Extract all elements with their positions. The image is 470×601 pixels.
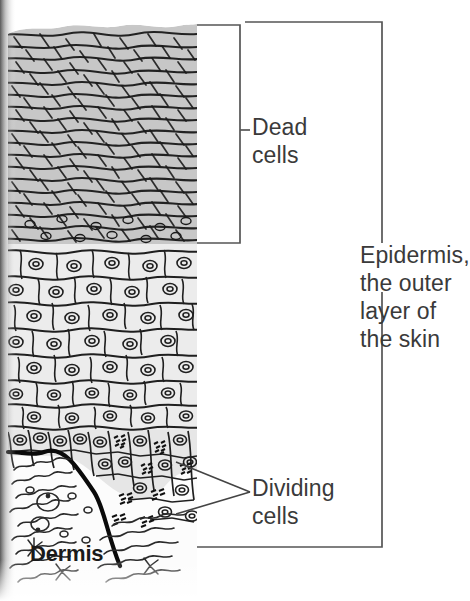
dead-cells-bracket <box>197 25 250 243</box>
label-epidermis: Epidermis, the outer layer of the skin <box>360 241 470 353</box>
label-dead-cells: Dead cells <box>252 113 307 169</box>
label-dividing-cells: Dividing cells <box>252 474 335 530</box>
label-dermis: Dermis <box>30 541 103 567</box>
scan-edge-shadow <box>0 0 16 601</box>
epidermis-bracket <box>197 22 382 547</box>
